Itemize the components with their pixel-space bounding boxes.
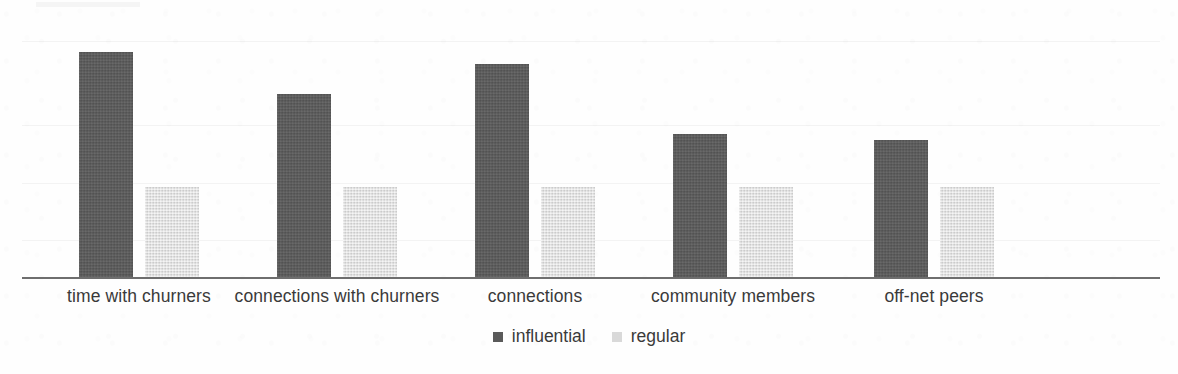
bar-influential-time-with-churners[interactable] bbox=[79, 52, 133, 278]
category-label-time-with-churners: time with churners bbox=[67, 286, 211, 307]
legend-entry-influential[interactable]: influential bbox=[493, 326, 586, 347]
legend-label-influential: influential bbox=[512, 326, 586, 347]
legend-swatch-icon-influential bbox=[493, 332, 503, 342]
bar-influential-off-net-peers[interactable] bbox=[874, 140, 928, 278]
plot-area bbox=[0, 0, 1178, 279]
legend-swatch-icon-regular bbox=[612, 332, 622, 342]
bar-influential-connections-with-churners[interactable] bbox=[277, 94, 331, 278]
gridline-0 bbox=[22, 41, 1160, 42]
gridline-2 bbox=[22, 183, 1160, 184]
bar-regular-time-with-churners[interactable] bbox=[145, 187, 199, 278]
category-axis-labels: time with churnersconnections with churn… bbox=[0, 286, 1178, 310]
chart-canvas: time with churnersconnections with churn… bbox=[0, 0, 1178, 374]
category-label-community-members: community members bbox=[651, 286, 815, 307]
category-label-off-net-peers: off-net peers bbox=[884, 286, 983, 307]
legend-label-regular: regular bbox=[631, 326, 685, 347]
bar-regular-community-members[interactable] bbox=[739, 187, 793, 278]
bar-regular-off-net-peers[interactable] bbox=[940, 187, 994, 278]
bar-regular-connections-with-churners[interactable] bbox=[343, 187, 397, 278]
category-label-connections-with-churners: connections with churners bbox=[235, 286, 440, 307]
bar-regular-connections[interactable] bbox=[541, 187, 595, 278]
bar-influential-connections[interactable] bbox=[475, 64, 529, 278]
legend-entry-regular[interactable]: regular bbox=[612, 326, 685, 347]
gridline-1 bbox=[22, 125, 1160, 126]
chart-legend: influentialregular bbox=[0, 326, 1178, 347]
category-label-connections: connections bbox=[488, 286, 583, 307]
x-axis-line bbox=[22, 277, 1160, 279]
bar-influential-community-members[interactable] bbox=[673, 134, 727, 278]
